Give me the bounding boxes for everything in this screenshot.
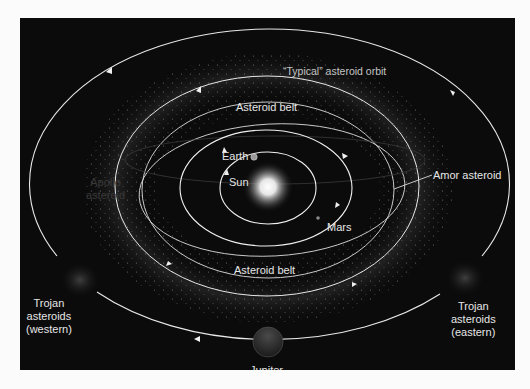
- trojan-cluster-western: [58, 260, 102, 300]
- mars-label: Mars: [327, 221, 351, 234]
- apollo-asteroid-label: Apollo asteroid: [86, 176, 125, 202]
- jupiter-label: Jupiter: [250, 364, 283, 370]
- trojan-eastern-line3: (eastern): [451, 326, 496, 339]
- sun-label: Sun: [229, 176, 249, 189]
- typical-orbit-label: “Typical” asteroid orbit: [283, 65, 386, 78]
- earth-icon: [251, 154, 257, 160]
- apollo-label-line2: asteroid: [86, 189, 125, 202]
- trojan-western-line1: Trojan: [26, 297, 72, 310]
- earth-label: Earth: [222, 150, 248, 163]
- apollo-label-line1: Apollo: [86, 176, 125, 189]
- mars-icon: [316, 216, 320, 220]
- trojan-western-label: Trojan asteroids (western): [26, 297, 72, 336]
- trojan-eastern-label: Trojan asteroids (eastern): [451, 300, 496, 339]
- asteroid-belt-top-label: Asteroid belt: [236, 101, 297, 114]
- amor-asteroid-label: Amor asteroid: [433, 169, 501, 182]
- trojan-western-line3: (western): [26, 323, 72, 336]
- diagram-panel: “Typical” asteroid orbit Asteroid belt E…: [20, 18, 515, 370]
- asteroid-belt-bottom-label: Asteroid belt: [234, 264, 295, 277]
- trojan-eastern-line1: Trojan: [451, 300, 496, 313]
- trojan-western-line2: asteroids: [26, 310, 72, 323]
- jupiter-icon: [253, 327, 283, 357]
- trojan-cluster-eastern: [443, 258, 487, 298]
- trojan-eastern-line2: asteroids: [451, 313, 496, 326]
- sun-icon: [242, 161, 294, 213]
